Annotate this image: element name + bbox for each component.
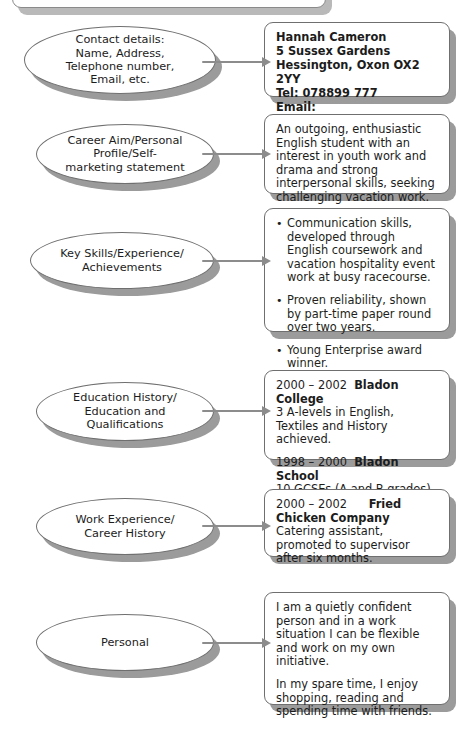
content-box-career-aim: An outgoing, enthusiastic English studen… [264, 114, 456, 201]
content-box-key-skills: Communication skills, developed through … [264, 208, 456, 339]
content-box-personal: I am a quietly confident person and in a… [264, 592, 456, 712]
oval-label-text: Contact details: Name, Address, Telephon… [58, 33, 183, 87]
entry-detail: Catering assistant, promoted to supervis… [276, 524, 410, 565]
label-oval-personal: Personal [36, 614, 220, 676]
box-education: 2000 – 2002 Bladon College3 A-levels in … [264, 370, 450, 460]
career-aim-text: An outgoing, enthusiastic English studen… [276, 123, 439, 205]
box-key-skills: Communication skills, developed through … [264, 208, 450, 332]
arrow-key-skills [202, 255, 272, 267]
paragraph: In my spare time, I enjoy shopping, read… [276, 678, 439, 719]
label-oval-contact: Contact details: Name, Address, Telephon… [24, 26, 220, 98]
work-entries: 2000 – 2002 Fried Chicken CompanyCaterin… [276, 498, 439, 566]
box-personal: I am a quietly confident person and in a… [264, 592, 450, 705]
oval-career-aim: Career Aim/Personal Profile/Self- market… [36, 124, 214, 184]
entry-dates: 2000 – 2002 [276, 497, 347, 511]
work-entry: 2000 – 2002 Fried Chicken CompanyCaterin… [276, 498, 439, 566]
content-box-contact: Hannah Cameron 5 Sussex Gardens Hessingt… [264, 22, 456, 104]
arrow-career-aim [202, 148, 272, 160]
paragraph: An outgoing, enthusiastic English studen… [276, 123, 439, 205]
oval-label-text: Work Experience/ Career History [67, 513, 182, 540]
oval-key-skills: Key Skills/Experience/ Achievements [30, 232, 214, 289]
label-oval-key-skills: Key Skills/Experience/ Achievements [30, 232, 220, 294]
box-contact: Hannah Cameron 5 Sussex Gardens Hessingt… [264, 22, 450, 97]
oval-label-text: Personal [93, 636, 157, 649]
entry-dates: 2000 – 2002 [276, 378, 347, 392]
oval-label-text: Key Skills/Experience/ Achievements [52, 247, 192, 274]
oval-label-text: Education History/ Education and Qualifi… [65, 391, 185, 431]
oval-contact: Contact details: Name, Address, Telephon… [24, 26, 216, 94]
education-entry: 2000 – 2002 Bladon College3 A-levels in … [276, 379, 439, 447]
contact-line: Hessington, Oxon OX2 2YY [276, 59, 439, 87]
label-oval-education: Education History/ Education and Qualifi… [36, 382, 220, 446]
content-box-work-experience: 2000 – 2002 Fried Chicken CompanyCaterin… [264, 489, 456, 564]
box-work-experience: 2000 – 2002 Fried Chicken CompanyCaterin… [264, 489, 450, 557]
paragraph: I am a quietly confident person and in a… [276, 601, 439, 669]
arrow-contact [202, 56, 272, 68]
list-item: Proven reliability, shown by part-time p… [276, 294, 439, 335]
arrow-personal [202, 637, 272, 649]
arrow-education [202, 405, 272, 417]
list-item: Communication skills, developed through … [276, 217, 439, 285]
oval-personal: Personal [36, 614, 214, 671]
key-skills-list: Communication skills, developed through … [276, 217, 439, 371]
entry-detail: 3 A-levels in English, Textiles and Hist… [276, 405, 394, 446]
label-oval-work-experience: Work Experience/ Career History [36, 498, 220, 560]
entry-dates: 1998 – 2000 [276, 455, 347, 469]
oval-label-text: Career Aim/Personal Profile/Self- market… [57, 134, 192, 174]
contact-line: Hannah Cameron [276, 31, 439, 45]
contact-line: 5 Sussex Gardens [276, 45, 439, 59]
top-clipped-box [12, 0, 326, 8]
oval-work-experience: Work Experience/ Career History [36, 498, 214, 555]
label-oval-career-aim: Career Aim/Personal Profile/Self- market… [36, 124, 220, 188]
arrow-work-experience [202, 520, 272, 532]
box-career-aim: An outgoing, enthusiastic English studen… [264, 114, 450, 194]
content-box-education: 2000 – 2002 Bladon College3 A-levels in … [264, 370, 456, 467]
list-item: Young Enterprise award winner. [276, 344, 439, 371]
personal-text: I am a quietly confident person and in a… [276, 601, 439, 719]
contact-line: Tel: 078899 777 [276, 87, 439, 101]
cv-structure-diagram: Contact details: Name, Address, Telephon… [0, 0, 462, 734]
oval-education: Education History/ Education and Qualifi… [36, 382, 214, 441]
